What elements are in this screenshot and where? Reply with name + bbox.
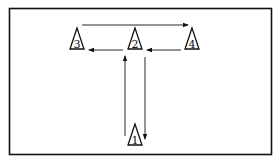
field-border — [10, 9, 272, 155]
t-drill-diagram: 3 2 4 1 — [0, 0, 280, 160]
cone-label: 2 — [132, 38, 139, 51]
cone-1: 1 — [128, 124, 142, 147]
cone-label: 1 — [132, 134, 139, 147]
cone-3: 3 — [70, 28, 84, 51]
cone-label: 4 — [189, 38, 196, 51]
cone-label: 3 — [74, 38, 81, 51]
cone-4: 4 — [185, 28, 199, 51]
cone-2: 2 — [128, 28, 142, 51]
